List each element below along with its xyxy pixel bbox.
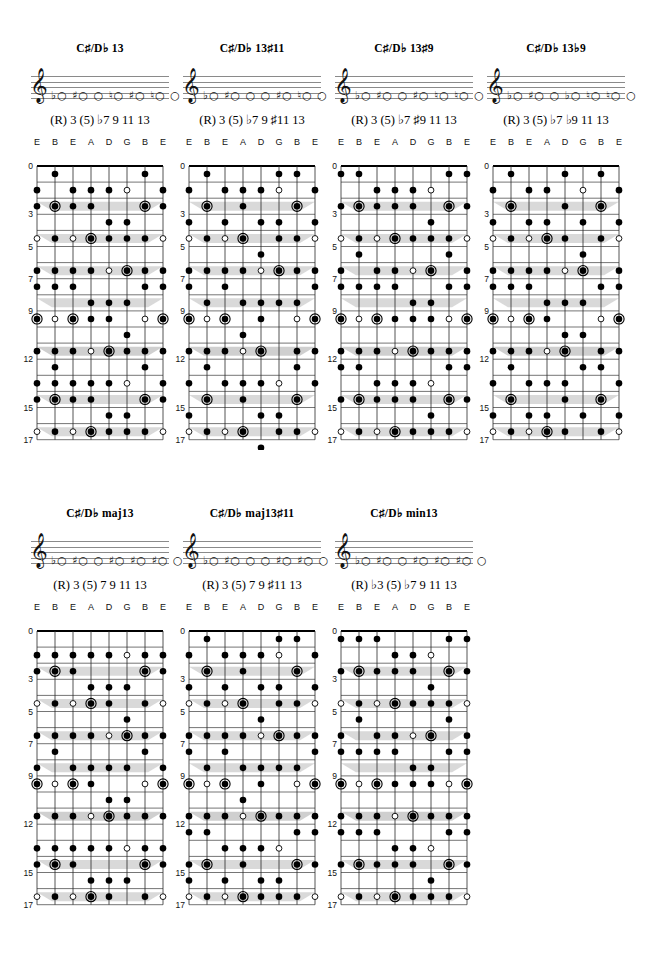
- fret-note-open[interactable]: [186, 236, 192, 242]
- fret-note-filled[interactable]: [258, 444, 265, 449]
- fret-note-filled[interactable]: [34, 813, 41, 820]
- fret-note-filled[interactable]: [204, 893, 211, 900]
- fret-note-open[interactable]: [222, 894, 228, 900]
- fret-note-filled[interactable]: [70, 203, 77, 210]
- fret-note-filled[interactable]: [70, 652, 77, 659]
- fret-note-open[interactable]: [34, 236, 40, 242]
- fret-note-filled[interactable]: [124, 235, 131, 242]
- fret-note-filled[interactable]: [222, 267, 229, 274]
- fret-note-filled[interactable]: [356, 283, 363, 290]
- fret-note-filled[interactable]: [142, 813, 149, 820]
- fret-note-filled[interactable]: [410, 300, 417, 307]
- fret-note-open[interactable]: [428, 845, 434, 851]
- fret-note-open[interactable]: [142, 316, 148, 322]
- fret-note-filled[interactable]: [124, 348, 131, 355]
- fret-note-filled[interactable]: [490, 187, 497, 194]
- fret-note-filled[interactable]: [240, 861, 247, 868]
- fret-note-filled[interactable]: [562, 428, 569, 435]
- fret-note-filled[interactable]: [410, 700, 417, 707]
- fret-note-filled[interactable]: [258, 412, 265, 419]
- fret-note-filled[interactable]: [106, 700, 113, 707]
- fret-note-filled[interactable]: [508, 267, 515, 274]
- fret-note-filled[interactable]: [508, 348, 515, 355]
- fret-note-open[interactable]: [70, 701, 76, 707]
- fret-note-filled[interactable]: [52, 171, 59, 178]
- fret-note-filled[interactable]: [428, 412, 435, 419]
- fret-note-filled[interactable]: [186, 380, 193, 387]
- fret-note-filled[interactable]: [204, 171, 211, 178]
- fret-note-filled[interactable]: [338, 829, 345, 836]
- fret-note-filled[interactable]: [142, 428, 149, 435]
- fretboard-diagram[interactable]: 03579121517: [329, 154, 479, 450]
- fret-note-filled[interactable]: [356, 716, 363, 723]
- fret-note-filled[interactable]: [70, 187, 77, 194]
- fret-note-open[interactable]: [70, 429, 76, 435]
- fret-note-filled[interactable]: [616, 283, 623, 290]
- fret-note-filled[interactable]: [526, 187, 533, 194]
- fret-note-filled[interactable]: [88, 652, 95, 659]
- fret-note-filled[interactable]: [160, 348, 167, 355]
- fret-note-open[interactable]: [338, 701, 344, 707]
- fret-note-filled[interactable]: [464, 203, 471, 210]
- fret-note-filled[interactable]: [204, 813, 211, 820]
- fret-note-open[interactable]: [374, 894, 380, 900]
- fret-note-filled[interactable]: [446, 283, 453, 290]
- fret-note-filled[interactable]: [294, 893, 301, 900]
- fret-note-filled[interactable]: [186, 684, 193, 691]
- fret-note-filled[interactable]: [338, 171, 345, 178]
- fret-note-filled[interactable]: [88, 300, 95, 307]
- fret-note-filled[interactable]: [106, 412, 113, 419]
- fret-note-filled[interactable]: [160, 203, 167, 210]
- fret-note-filled[interactable]: [490, 283, 497, 290]
- fret-note-filled[interactable]: [142, 267, 149, 274]
- fret-note-filled[interactable]: [222, 219, 229, 226]
- fret-note-filled[interactable]: [106, 765, 113, 772]
- fret-note-filled[interactable]: [312, 652, 319, 659]
- fret-note-filled[interactable]: [428, 893, 435, 900]
- fret-note-filled[interactable]: [374, 732, 381, 739]
- fret-note-filled[interactable]: [616, 348, 623, 355]
- fret-note-filled[interactable]: [392, 267, 399, 274]
- fret-note-filled[interactable]: [464, 732, 471, 739]
- fret-note-filled[interactable]: [312, 813, 319, 820]
- fret-note-filled[interactable]: [464, 861, 471, 868]
- fret-note-filled[interactable]: [392, 187, 399, 194]
- chord-card-cs-db-13s11[interactable]: C♯/D♭ 13♯11𝄞♭○ ♯○ ○ ○ ♯○ ♮○ ○(R) 3 (5) ♭…: [177, 40, 327, 450]
- fret-note-filled[interactable]: [410, 187, 417, 194]
- fret-note-filled[interactable]: [258, 781, 265, 788]
- fretboard-diagram[interactable]: 03579121517: [25, 619, 175, 915]
- fret-note-filled[interactable]: [446, 716, 453, 723]
- fret-note-filled[interactable]: [222, 652, 229, 659]
- fret-note-filled[interactable]: [374, 187, 381, 194]
- fret-note-filled[interactable]: [598, 235, 605, 242]
- fret-note-filled[interactable]: [392, 283, 399, 290]
- fret-note-filled[interactable]: [428, 219, 435, 226]
- fret-note-filled[interactable]: [616, 267, 623, 274]
- fret-note-filled[interactable]: [88, 396, 95, 403]
- fret-note-filled[interactable]: [312, 684, 319, 691]
- fret-note-open[interactable]: [464, 894, 470, 900]
- fretboard-diagram[interactable]: 03579121517: [25, 154, 175, 450]
- fret-note-open[interactable]: [338, 429, 344, 435]
- fret-note-filled[interactable]: [160, 813, 167, 820]
- fret-note-filled[interactable]: [106, 893, 113, 900]
- fret-note-filled[interactable]: [142, 171, 149, 178]
- fret-note-open[interactable]: [70, 236, 76, 242]
- fret-note-filled[interactable]: [446, 235, 453, 242]
- fret-note-open[interactable]: [464, 236, 470, 242]
- fret-note-filled[interactable]: [312, 748, 319, 755]
- fret-note-filled[interactable]: [142, 732, 149, 739]
- fret-note-filled[interactable]: [410, 652, 417, 659]
- fret-note-filled[interactable]: [410, 765, 417, 772]
- fret-note-filled[interactable]: [490, 380, 497, 387]
- fret-note-filled[interactable]: [490, 348, 497, 355]
- fret-note-filled[interactable]: [160, 283, 167, 290]
- fret-note-filled[interactable]: [490, 267, 497, 274]
- fret-note-filled[interactable]: [204, 428, 211, 435]
- fret-note-filled[interactable]: [294, 300, 301, 307]
- fret-note-filled[interactable]: [186, 829, 193, 836]
- fret-note-filled[interactable]: [222, 877, 229, 884]
- fret-note-filled[interactable]: [338, 364, 345, 371]
- fret-note-filled[interactable]: [276, 877, 283, 884]
- fret-note-filled[interactable]: [276, 219, 283, 226]
